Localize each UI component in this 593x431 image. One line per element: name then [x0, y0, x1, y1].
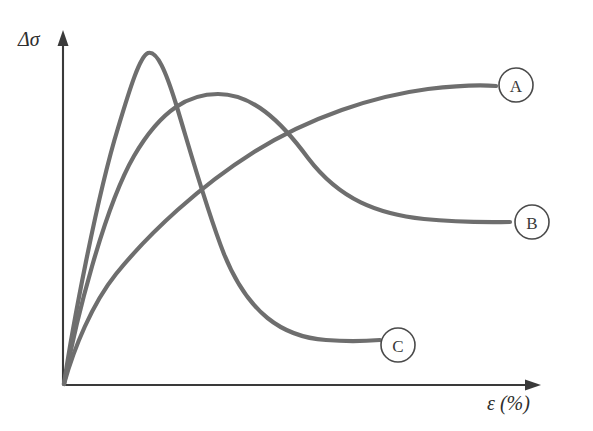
curves-group — [64, 53, 510, 384]
stress-strain-figure: A B C Δσ ε (%) — [0, 0, 593, 431]
marker-label-a: A — [510, 77, 523, 96]
curve-marker-a: A — [499, 68, 533, 102]
curve-c — [64, 53, 380, 384]
curve-marker-b: B — [515, 205, 549, 239]
y-axis-label: Δσ — [18, 28, 40, 51]
chart-canvas: A B C — [0, 0, 593, 431]
x-axis-arrowhead — [525, 380, 541, 391]
curve-marker-c: C — [381, 328, 415, 362]
marker-label-b: B — [526, 214, 537, 233]
y-axis-arrowhead — [58, 30, 69, 46]
curve-b — [64, 94, 510, 384]
curve-a — [64, 85, 496, 384]
x-axis-label: ε (%) — [487, 392, 530, 415]
marker-label-c: C — [392, 337, 403, 356]
